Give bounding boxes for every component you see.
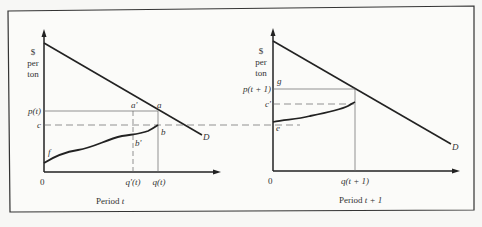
demand-label: D bbox=[451, 142, 459, 152]
y-axis-label-dollar: $ bbox=[259, 46, 264, 56]
q-prime-tick-label: q'(t) bbox=[126, 177, 141, 187]
origin-label: 0 bbox=[40, 177, 45, 187]
y-axis-label-dollar: $ bbox=[31, 47, 36, 57]
diagram: $ per ton p(t) c a' a b b' f D 0 q'(t) q… bbox=[0, 0, 482, 227]
cost-tick-label: c bbox=[37, 120, 41, 130]
y-axis-label-ton: ton bbox=[255, 68, 267, 78]
price-tick-label: p(t + 1) bbox=[242, 84, 271, 94]
point-a-prime: a' bbox=[131, 100, 139, 110]
q-tick-label: q(t + 1) bbox=[341, 176, 369, 186]
q-tick-label: q(t) bbox=[153, 177, 166, 187]
y-axis-label-per: per bbox=[27, 58, 39, 68]
point-e: e bbox=[276, 123, 280, 133]
y-axis-label-per: per bbox=[255, 57, 267, 67]
period-caption: Period t bbox=[96, 196, 125, 206]
point-a: a bbox=[157, 100, 162, 110]
point-g: g bbox=[277, 76, 282, 86]
frame bbox=[8, 6, 474, 212]
origin-label: 0 bbox=[268, 176, 273, 186]
price-tick-label: p(t) bbox=[27, 106, 41, 116]
demand-label: D bbox=[202, 132, 210, 142]
point-b-prime: b' bbox=[135, 138, 143, 148]
y-axis-label-ton: ton bbox=[27, 69, 39, 79]
period-caption: Period t + 1 bbox=[339, 195, 382, 205]
point-b: b bbox=[161, 127, 166, 137]
